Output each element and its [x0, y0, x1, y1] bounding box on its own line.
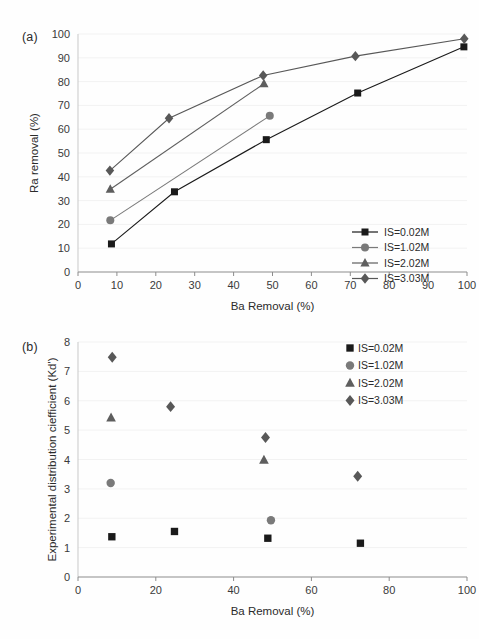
legend-label: IS=1.02M	[358, 359, 403, 371]
x-tick-label: 60	[305, 584, 317, 596]
x-tick-label: 10	[111, 279, 123, 291]
data-point	[165, 113, 174, 123]
series-is202m	[106, 413, 269, 464]
legend-label: IS=2.02M	[358, 377, 403, 389]
legend-marker	[345, 378, 355, 387]
x-tick-label: 40	[227, 279, 239, 291]
legend-item[interactable]: IS=2.02M	[352, 257, 429, 269]
data-point	[267, 516, 275, 524]
data-point	[108, 533, 115, 540]
data-point	[263, 136, 270, 143]
y-axis-title: Ra removal (%)	[28, 113, 40, 193]
legend-marker	[346, 361, 354, 369]
data-point	[106, 184, 115, 193]
y-tick-label: 10	[58, 242, 70, 254]
y-tick-label: 20	[58, 218, 70, 230]
x-tick-label: 50	[266, 279, 278, 291]
data-point	[353, 471, 362, 482]
data-point	[106, 413, 116, 422]
legend-label: IS=0.02M	[384, 226, 429, 238]
y-tick-label: 1	[64, 542, 70, 554]
data-point	[460, 43, 467, 50]
y-tick-label: 4	[64, 454, 70, 466]
plot-area: 012345678020406080100Ba Removal (%)Exper…	[46, 336, 476, 617]
data-point	[259, 70, 268, 80]
data-point	[357, 540, 364, 547]
y-tick-label: 8	[64, 336, 70, 348]
data-point	[460, 34, 469, 44]
x-tick-label: 20	[150, 279, 162, 291]
series-is002m	[108, 528, 364, 547]
x-axis-title: Ba Removal (%)	[231, 605, 315, 617]
x-tick-label: 70	[344, 279, 356, 291]
panel-b-label: (b)	[22, 340, 38, 354]
x-tick-label: 80	[383, 584, 395, 596]
chart-b-svg: 012345678020406080100Ba Removal (%)Exper…	[0, 330, 479, 639]
y-tick-label: 100	[52, 28, 70, 40]
series-line	[110, 84, 264, 189]
series-is002m	[108, 43, 467, 247]
y-tick-label: 40	[58, 171, 70, 183]
data-point	[171, 188, 178, 195]
data-point	[108, 352, 117, 363]
data-point	[259, 79, 268, 88]
series-line	[110, 39, 464, 171]
legend-item[interactable]: IS=1.02M	[352, 241, 429, 253]
x-tick-label: 100	[458, 279, 476, 291]
legend-item[interactable]: IS=3.03M	[346, 394, 404, 406]
data-point	[351, 51, 360, 61]
x-tick-label: 0	[75, 584, 81, 596]
y-axis-title: Experimental distribution ciefficient (K…	[46, 357, 58, 561]
legend-marker	[361, 273, 370, 283]
x-axis-title: Ba Removal (%)	[231, 300, 315, 312]
chart-panel-b: (b) 012345678020406080100Ba Removal (%)E…	[0, 330, 479, 639]
y-tick-label: 70	[58, 99, 70, 111]
x-tick-label: 40	[227, 584, 239, 596]
x-tick-label: 60	[305, 279, 317, 291]
x-tick-label: 20	[150, 584, 162, 596]
data-point	[261, 432, 270, 443]
legend-label: IS=3.03M	[358, 394, 403, 406]
chart-legend: IS=0.02MIS=1.02MIS=2.02MIS=3.03M	[352, 226, 429, 285]
series-is102m	[106, 479, 275, 525]
legend-item[interactable]: IS=0.02M	[346, 342, 403, 354]
legend-label: IS=0.02M	[358, 342, 403, 354]
y-tick-label: 5	[64, 424, 70, 436]
chart-panel-a: (a) 010203040506070809010001020304050607…	[0, 0, 479, 330]
legend-item[interactable]: IS=2.02M	[345, 377, 403, 389]
y-tick-label: 60	[58, 123, 70, 135]
legend-item[interactable]: IS=3.03M	[352, 272, 429, 284]
legend-marker	[346, 344, 353, 351]
data-point	[106, 216, 114, 224]
legend-label: IS=3.03M	[384, 272, 429, 284]
data-point	[166, 401, 175, 412]
y-tick-label: 50	[58, 147, 70, 159]
data-point	[106, 479, 114, 487]
y-tick-label: 0	[64, 266, 70, 278]
data-point	[354, 90, 361, 97]
chart-legend: IS=0.02MIS=1.02MIS=2.02MIS=3.03M	[345, 342, 403, 407]
y-tick-label: 6	[64, 395, 70, 407]
y-tick-label: 2	[64, 512, 70, 524]
series-is202m	[106, 79, 269, 193]
legend-label: IS=1.02M	[384, 241, 429, 253]
panel-a-label: (a)	[22, 30, 38, 44]
y-tick-label: 90	[58, 52, 70, 64]
data-point	[106, 165, 115, 175]
legend-marker	[362, 229, 369, 236]
x-tick-label: 0	[75, 279, 81, 291]
legend-marker	[360, 258, 369, 267]
legend-item[interactable]: IS=0.02M	[352, 226, 429, 238]
legend-label: IS=2.02M	[384, 257, 429, 269]
data-point	[264, 535, 271, 542]
chart-a-svg: 0102030405060708090100010203040506070809…	[0, 0, 479, 330]
y-tick-label: 7	[64, 365, 70, 377]
legend-marker	[361, 244, 369, 252]
x-tick-label: 100	[458, 584, 476, 596]
series-line	[110, 116, 269, 220]
legend-item[interactable]: IS=1.02M	[346, 359, 403, 371]
data-point	[108, 240, 115, 247]
data-point	[171, 528, 178, 535]
legend-marker	[346, 395, 355, 406]
x-tick-label: 30	[189, 279, 201, 291]
